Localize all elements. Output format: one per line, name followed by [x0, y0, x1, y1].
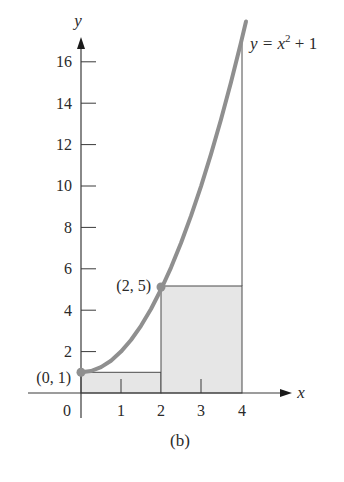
- chart-canvas: y x 2 4 6 8 10 12 14 16 0 1 2 3 4 (0, 1)…: [0, 0, 344, 482]
- x-tick-label-4: 4: [238, 402, 246, 419]
- x-tick-label-3: 3: [197, 402, 205, 419]
- equation-label: y = x2 + 1: [248, 32, 317, 53]
- y-ticks: [81, 62, 96, 352]
- y-tick-label-12: 12: [56, 136, 72, 153]
- x-tick-label-1: 1: [117, 402, 125, 419]
- y-tick-label-4: 4: [64, 302, 72, 319]
- x-tick-label-2: 2: [157, 402, 165, 419]
- riemann-rectangles: [81, 286, 242, 393]
- y-axis-arrow-icon: [77, 37, 85, 49]
- origin-label: 0: [63, 402, 71, 419]
- point-label-0-1: (0, 1): [36, 369, 71, 387]
- y-tick-label-10: 10: [56, 177, 72, 194]
- x-tick-labels: 0 1 2 3 4: [63, 402, 246, 419]
- rectangle-2-4: [161, 286, 242, 393]
- y-tick-label-14: 14: [56, 95, 72, 112]
- x-axis-label: x: [296, 383, 305, 402]
- figure-caption: (b): [170, 431, 190, 450]
- y-tick-label-2: 2: [64, 343, 72, 360]
- y-tick-label-6: 6: [64, 260, 72, 277]
- equation-main: y = x: [248, 34, 286, 53]
- point-label-2-5: (2, 5): [116, 277, 151, 295]
- y-axis-label: y: [72, 11, 82, 30]
- equation-tail: + 1: [291, 34, 318, 53]
- y-tick-label-16: 16: [56, 53, 72, 70]
- x-axis-arrow-icon: [280, 389, 292, 397]
- y-tick-label-8: 8: [64, 219, 72, 236]
- point-2-5: [157, 283, 166, 292]
- y-tick-labels: 2 4 6 8 10 12 14 16: [56, 53, 72, 360]
- point-0-1: [77, 368, 86, 377]
